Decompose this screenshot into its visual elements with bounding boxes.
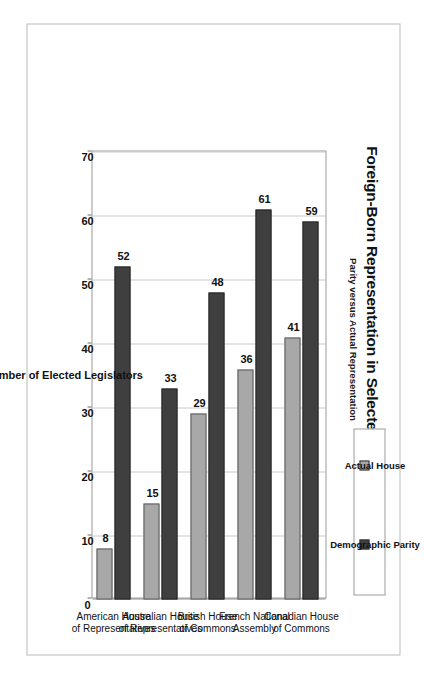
category-label: American Houseof Representatives: [71, 610, 157, 634]
bar-demographic-parity[interactable]: [209, 292, 225, 599]
bar-actual-house[interactable]: [191, 413, 207, 599]
gridline-70: [92, 151, 325, 152]
data-label-demographic-parity: 59: [304, 204, 320, 216]
chart-legend: Actual House Demographic Parity: [353, 428, 385, 595]
value-tick-label-20: 20: [81, 470, 93, 482]
data-label-demographic-parity: 48: [210, 275, 226, 287]
bar-actual-house[interactable]: [238, 369, 254, 599]
bar-actual-house[interactable]: [144, 503, 160, 599]
category-label-line: of Representatives: [72, 622, 155, 633]
data-label-actual-house: 15: [145, 486, 161, 498]
legend-label-demographic-parity: Demographic Parity: [330, 538, 420, 549]
value-tick-label-70: 70: [81, 150, 93, 162]
data-label-demographic-parity: 61: [257, 192, 273, 204]
data-label-demographic-parity: 33: [163, 371, 179, 383]
bar-demographic-parity[interactable]: [303, 221, 319, 599]
data-label-actual-house: 41: [286, 320, 302, 332]
data-label-actual-house: 29: [192, 396, 208, 408]
bar-demographic-parity[interactable]: [256, 209, 272, 599]
chart-plate: Foreign-Born Representation in Selected …: [26, 23, 400, 655]
bar-demographic-parity[interactable]: [162, 388, 178, 599]
value-axis-title-text: Number of Elected Legislators: [0, 368, 142, 380]
value-tick-label-30: 30: [81, 406, 93, 418]
bar-actual-house[interactable]: [285, 337, 301, 599]
value-tick-label-50: 50: [81, 278, 93, 290]
value-tick-label-0: 0: [81, 598, 93, 610]
rotated-figure: Foreign-Born Representation in Selected …: [0, 0, 424, 699]
legend-item-demographic-parity[interactable]: Demographic Parity: [359, 499, 380, 589]
data-label-actual-house: 36: [239, 352, 255, 364]
value-axis-title: Number of Elected Legislators: [57, 150, 69, 598]
category-label-line: American House: [77, 610, 151, 621]
legend-label-actual-house: Actual House: [344, 460, 405, 471]
chart-page: Foreign-Born Representation in Selected …: [0, 0, 424, 699]
bar-demographic-parity[interactable]: [115, 266, 131, 599]
bar-actual-house[interactable]: [97, 548, 113, 599]
value-tick-label-40: 40: [81, 342, 93, 354]
value-tick-label-60: 60: [81, 214, 93, 226]
data-label-actual-house: 8: [98, 531, 114, 543]
value-tick-label-10: 10: [81, 534, 93, 546]
gridline-60: [92, 215, 325, 216]
data-label-demographic-parity: 52: [116, 249, 132, 261]
legend-item-actual-house[interactable]: Actual House: [359, 435, 380, 496]
